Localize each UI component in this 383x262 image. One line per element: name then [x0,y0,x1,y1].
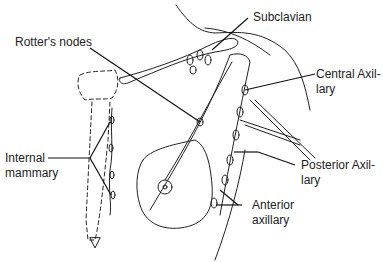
leader-rotters-nodes [90,48,200,122]
label-rotters-nodes: Rotter's nodes [15,35,92,49]
clavicle [119,38,238,83]
label-posterior-axillary-line1: Posterior Axil- [301,158,375,172]
label-posterior-axillary-line2: lary [301,173,320,187]
pectoral-muscle [150,54,250,215]
label-internal-mammary-line1: Internal [5,151,45,165]
label-anterior-axillary-line1: Anterior [252,198,294,212]
breast-outline [137,140,212,228]
label-internal-mammary-line2: mammary [5,166,58,180]
nipple [158,180,172,194]
leader-subclavian [212,18,248,50]
label-anterior-axillary-line2: axillary [252,213,289,227]
label-subclavian: Subclavian [253,10,312,24]
label-central-axillary-line2: lary [316,82,335,96]
leader-posterior-axillary [258,152,295,165]
sternum-manubrium [78,70,118,100]
breast-lymph-diagram: Subclavian Rotter's nodes Central Axil- … [0,0,383,262]
label-central-axillary-line1: Central Axil- [316,67,381,81]
